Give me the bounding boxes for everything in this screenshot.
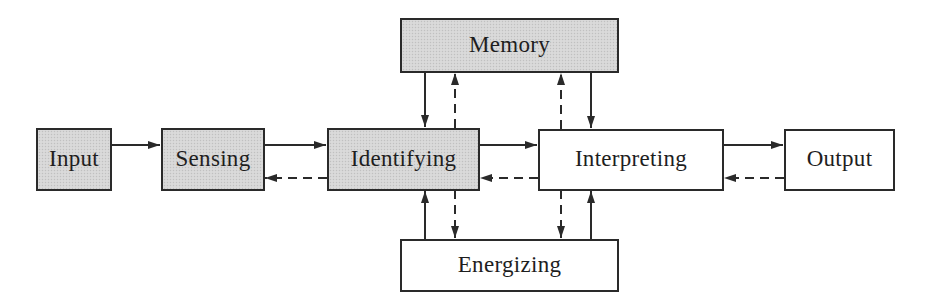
node-memory-label: Memory [469,32,550,60]
node-energizing-label: Energizing [458,252,562,280]
node-interpreting-label: Interpreting [575,146,687,174]
node-identifying-label: Identifying [351,146,457,174]
diagram: Input Sensing Identifying Interpreting O… [0,0,926,308]
node-sensing-label: Sensing [176,146,251,174]
node-output-label: Output [807,146,873,174]
node-input: Input [36,128,112,191]
node-energizing: Energizing [400,239,619,292]
node-memory: Memory [400,18,619,73]
node-sensing: Sensing [161,128,265,191]
node-interpreting: Interpreting [538,129,724,191]
node-input-label: Input [49,146,99,174]
node-identifying: Identifying [327,128,480,191]
node-output: Output [784,129,895,191]
